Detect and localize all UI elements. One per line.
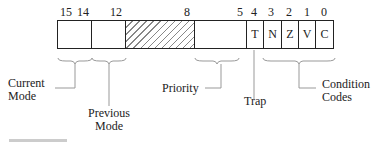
- label-current-mode-2: Mode: [8, 90, 36, 103]
- label-condition-codes-2: Codes: [322, 91, 352, 104]
- label-priority: Priority: [162, 82, 199, 95]
- brace-lines: [0, 0, 381, 143]
- cropped-caption: [9, 139, 67, 142]
- label-trap: Trap: [244, 95, 266, 108]
- label-previous-mode-2: Mode: [95, 120, 123, 133]
